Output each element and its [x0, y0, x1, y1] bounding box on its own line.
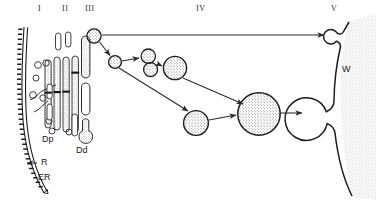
cisterna-dd-budding: [79, 119, 93, 144]
fusing-vesicle-pair: [141, 49, 155, 63]
stage-label-iv: IV: [196, 4, 206, 13]
cisterna-fragment: [47, 104, 52, 120]
secretory-vesicle-group: [87, 29, 209, 135]
enlarged-vesicle: [163, 56, 186, 79]
ribosome-cluster: [17, 28, 43, 187]
cell-periphery-group: [285, 0, 376, 204]
cisterna-fragment: [56, 33, 61, 50]
secretory-pathway-figure: I II III IV V Dp Dd R ER W: [0, 0, 376, 204]
label-dp: Dp: [42, 134, 54, 144]
transition-vesicle: [30, 92, 37, 99]
secretory-vesicle-origin: [87, 29, 101, 43]
cisterna-dd: [82, 83, 90, 115]
label-dd: Dd: [76, 145, 88, 155]
pathway-illustration: [0, 0, 376, 204]
label-w: W: [342, 64, 351, 74]
cisterna-fragment: [47, 84, 52, 99]
arrow-fusion-to-enlarged: [158, 64, 162, 66]
arrow-lower-to-mature: [209, 115, 236, 120]
transition-vesicle: [35, 62, 42, 69]
cisterna-dp: [63, 57, 69, 132]
stage-label-v: V: [331, 4, 337, 13]
label-r: R: [41, 157, 48, 167]
stage-label-ii: II: [62, 4, 69, 13]
arrow-origin-to-small: [100, 42, 111, 56]
label-er: ER: [38, 172, 51, 182]
transition-vesicle: [33, 75, 39, 81]
er-membrane-inner: [26, 28, 48, 193]
cisterna-dp: [54, 57, 60, 130]
pathway-arrow-group: [100, 35, 325, 120]
arrow-small-to-fusion: [122, 58, 139, 61]
mature-vesicle: [238, 93, 280, 135]
vesicle-fusion-group: [141, 49, 280, 135]
cisterna-fragment: [66, 32, 71, 47]
arrow-enlarged-to-mature: [183, 78, 243, 104]
secretory-vesicle-small: [109, 56, 122, 69]
cell-wall-band: [330, 0, 376, 204]
stage-label-iii: III: [85, 4, 95, 13]
fusing-vesicle-pair: [144, 63, 158, 77]
rough-er-group: [17, 27, 48, 194]
stage-label-i: I: [38, 4, 41, 13]
cisterna-dd-fragment: [72, 114, 78, 136]
secretory-vesicle-lower: [184, 111, 209, 136]
cisterna-dd: [82, 36, 90, 78]
